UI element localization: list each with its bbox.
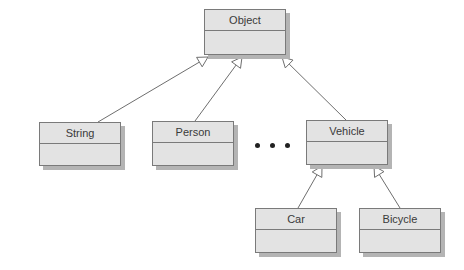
class-object[interactable]: Object xyxy=(204,9,286,55)
ellipsis-dot xyxy=(285,143,290,148)
hollow-triangle-arrowhead-icon xyxy=(232,57,242,68)
generalization-line-vehicle-to-object xyxy=(289,64,346,120)
ellipsis-dot xyxy=(255,143,260,148)
generalization-line-car-to-vehicle xyxy=(298,175,317,208)
hollow-triangle-arrowhead-icon xyxy=(374,166,384,177)
hollow-triangle-arrowhead-icon xyxy=(197,57,208,67)
class-name: Person xyxy=(153,122,233,143)
class-name: Bicycle xyxy=(360,209,440,230)
class-person[interactable]: Person xyxy=(152,121,234,166)
class-attributes-compartment xyxy=(205,31,285,54)
generalization-line-person-to-object xyxy=(195,65,236,121)
class-name: String xyxy=(40,123,120,144)
ellipsis-dot xyxy=(270,143,275,148)
class-name: Object xyxy=(205,10,285,31)
uml-diagram: Object String Person Vehicle Car Bicycle xyxy=(0,0,464,270)
class-attributes-compartment xyxy=(153,143,233,165)
class-attributes-compartment xyxy=(256,230,336,252)
class-name: Car xyxy=(256,209,336,230)
class-name: Vehicle xyxy=(307,121,387,142)
class-vehicle[interactable]: Vehicle xyxy=(306,120,388,165)
generalization-line-bicycle-to-vehicle xyxy=(379,175,400,208)
hollow-triangle-arrowhead-icon xyxy=(312,166,322,177)
class-string[interactable]: String xyxy=(39,122,121,166)
generalization-line-string-to-object xyxy=(98,62,199,122)
class-attributes-compartment xyxy=(360,230,440,252)
class-bicycle[interactable]: Bicycle xyxy=(359,208,441,253)
class-car[interactable]: Car xyxy=(255,208,337,253)
class-attributes-compartment xyxy=(40,144,120,165)
class-attributes-compartment xyxy=(307,142,387,164)
